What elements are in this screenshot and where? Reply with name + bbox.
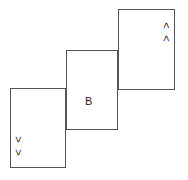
bottom-left-label-first: < — [12, 133, 25, 146]
bottom-left-label-stack: < < — [12, 133, 25, 159]
top-right-label-second: > — [160, 32, 173, 45]
top-right-label-stack: > > — [160, 19, 173, 45]
top-right-label-first: > — [160, 19, 173, 32]
diagram-canvas: > > B < < — [0, 0, 188, 180]
bottom-left-label-second: < — [12, 146, 25, 159]
center-box-label: B — [85, 95, 92, 107]
middle-box — [66, 50, 118, 130]
